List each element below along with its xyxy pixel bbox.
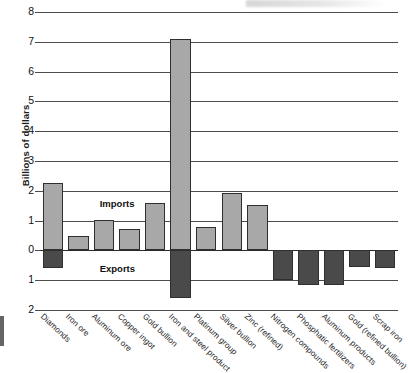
gridline-1 bbox=[40, 280, 398, 281]
bar-exports-aluminum-products bbox=[324, 250, 344, 284]
gridline-3 bbox=[40, 161, 398, 162]
x-axis-tick-labels: DiamondsIron oreAluminum oreCopper ingot… bbox=[40, 312, 398, 371]
gridline-4 bbox=[40, 131, 398, 132]
gridline-8 bbox=[40, 12, 398, 13]
y-tick-label-2: 2 bbox=[14, 303, 34, 315]
y-tick-mark bbox=[35, 72, 40, 73]
bar-imports-silver-bullion bbox=[222, 193, 242, 251]
bar-imports-iron-and-steel-product bbox=[170, 39, 190, 251]
y-tick-mark bbox=[35, 250, 40, 251]
gridline-5 bbox=[40, 101, 398, 102]
bar-imports-diamonds bbox=[43, 183, 63, 251]
y-tick-label-6: 6 bbox=[14, 64, 34, 76]
y-tick-mark bbox=[35, 12, 40, 13]
y-tick-label-7: 7 bbox=[14, 34, 34, 46]
bar-exports-scrap-iron bbox=[375, 250, 395, 268]
exports-series-label: Exports bbox=[100, 263, 135, 274]
gridline-2 bbox=[40, 191, 398, 192]
bar-imports-aluminum-ore bbox=[94, 220, 114, 250]
y-tick-label-1: 1 bbox=[14, 213, 34, 225]
y-tick-mark bbox=[35, 191, 40, 192]
bar-imports-platinum-group bbox=[196, 227, 216, 251]
bar-exports-iron-and-steel-product bbox=[170, 250, 190, 298]
cropped-title-artifact bbox=[246, 0, 386, 7]
y-tick-label-3: 3 bbox=[14, 154, 34, 166]
y-tick-mark bbox=[35, 221, 40, 222]
y-tick-mark bbox=[35, 161, 40, 162]
gridline-7 bbox=[40, 42, 398, 43]
page-edge-artifact bbox=[0, 316, 4, 346]
plot-area: 87654321012 Imports Exports bbox=[40, 12, 398, 310]
y-tick-label-1: 1 bbox=[14, 273, 34, 285]
y-tick-label-5: 5 bbox=[14, 94, 34, 106]
y-tick-mark bbox=[35, 280, 40, 281]
bar-imports-zinc-refined bbox=[247, 205, 267, 251]
bar-exports-diamonds bbox=[43, 250, 63, 268]
bar-exports-phosphatic-fertilizers bbox=[298, 250, 318, 284]
gridline-2 bbox=[40, 310, 398, 311]
y-tick-mark bbox=[35, 131, 40, 132]
gridline-6 bbox=[40, 72, 398, 73]
y-tick-mark bbox=[35, 310, 40, 311]
bar-imports-gold-bullion bbox=[145, 203, 165, 251]
bar-imports-iron-ore bbox=[68, 236, 88, 250]
y-tick-label-2: 2 bbox=[14, 183, 34, 195]
bar-imports-copper-ingot bbox=[119, 229, 139, 251]
y-tick-label-4: 4 bbox=[14, 124, 34, 136]
imports-series-label: Imports bbox=[100, 198, 135, 209]
y-tick-mark bbox=[35, 101, 40, 102]
gridline-0 bbox=[40, 250, 398, 251]
bar-exports-gold-refined-bullion bbox=[349, 250, 369, 266]
y-tick-label-0: 0 bbox=[14, 243, 34, 255]
y-tick-label-8: 8 bbox=[14, 5, 34, 17]
bar-exports-nitrogen-compounds bbox=[273, 250, 293, 280]
y-tick-mark bbox=[35, 42, 40, 43]
